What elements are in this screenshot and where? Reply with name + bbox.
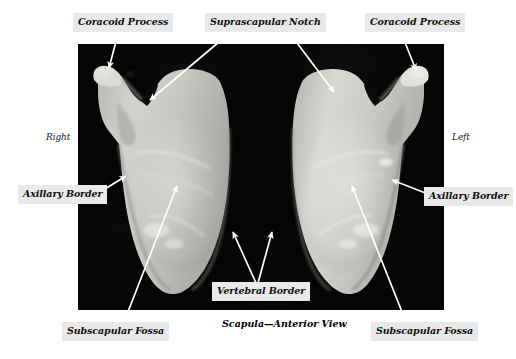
specimen-photograph (78, 44, 444, 310)
label-axillary-border-left: Axillary Border (18, 185, 107, 204)
right-scapula-specimen (93, 66, 229, 294)
label-subscapular-fossa-left: Subscapular Fossa (62, 322, 169, 341)
left-highlight-1 (353, 223, 379, 237)
bone-illustration-layer (78, 44, 444, 310)
right-coracoid-highlight (95, 68, 113, 78)
right-highlight-2 (165, 239, 183, 249)
label-subscapular-fossa-right: Subscapular Fossa (371, 322, 478, 341)
left-coracoid-highlight (409, 68, 427, 78)
label-vertebral-border: Vertebral Border (212, 282, 310, 301)
label-coracoid-process-right: Coracoid Process (365, 13, 465, 32)
right-dark-fleck (125, 71, 135, 77)
right-highlight-1 (143, 223, 169, 237)
label-orientation-right: Right (41, 129, 75, 147)
left-scapula-specimen (292, 66, 428, 294)
label-axillary-border-right: Axillary Border (424, 187, 513, 206)
left-highlight-2 (339, 239, 357, 249)
label-coracoid-process-left: Coracoid Process (73, 13, 173, 32)
label-suprascapular-notch: Suprascapular Notch (205, 13, 326, 32)
left-highlight-3 (379, 158, 393, 166)
label-orientation-left: Left (447, 129, 475, 147)
anatomy-figure: Coracoid Process Suprascapular Notch Cor… (0, 0, 516, 359)
figure-caption: Scapula—Anterior View (222, 318, 347, 329)
